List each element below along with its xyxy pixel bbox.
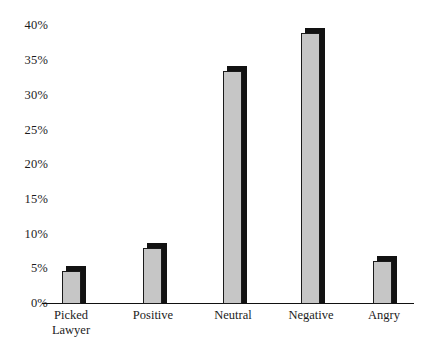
bar-face xyxy=(143,248,162,304)
bar-face xyxy=(373,261,392,304)
plot-area xyxy=(48,8,414,304)
bar-face xyxy=(62,271,81,304)
bar-neutral[interactable] xyxy=(223,71,247,304)
bar-side-shadow xyxy=(81,271,86,304)
bar-side-shadow xyxy=(320,33,325,304)
x-tick-label-neutral: Neutral xyxy=(190,308,276,323)
bar-picked-lawyer[interactable] xyxy=(62,271,86,304)
bar-side-shadow xyxy=(162,248,167,304)
y-tick-label-25: 25% xyxy=(4,124,48,136)
x-tick-label-picked-lawyer: Picked Lawyer xyxy=(28,308,114,338)
y-tick-label-35: 35% xyxy=(4,54,48,66)
bar-side-shadow xyxy=(242,71,247,304)
bar-angry[interactable] xyxy=(373,261,397,304)
bar-face xyxy=(223,71,242,304)
y-tick-label-5: 5% xyxy=(4,262,48,274)
x-tick-label-angry: Angry xyxy=(341,308,421,323)
y-tick-label-30: 30% xyxy=(4,89,48,101)
y-tick-label-40: 40% xyxy=(4,19,48,31)
y-tick-label-10: 10% xyxy=(4,228,48,240)
x-tick-label-positive: Positive xyxy=(110,308,196,323)
bar-chart: 40% 35% 30% 25% 20% 15% 10% 5% 0% xyxy=(0,0,421,346)
y-axis: 40% 35% 30% 25% 20% 15% 10% 5% 0% xyxy=(0,0,48,346)
bar-negative[interactable] xyxy=(301,33,325,304)
y-tick-label-15: 15% xyxy=(4,193,48,205)
bar-side-shadow xyxy=(392,261,397,304)
bar-face xyxy=(301,33,320,304)
y-tick-label-20: 20% xyxy=(4,158,48,170)
bar-positive[interactable] xyxy=(143,248,167,304)
